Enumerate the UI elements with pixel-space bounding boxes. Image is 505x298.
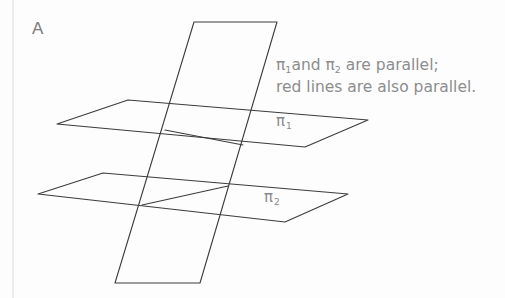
panel-letter: A [32, 20, 43, 37]
intersection-line-upper [165, 130, 243, 145]
annotation-line-1-suffix: are parallel; [341, 56, 439, 74]
pi-2-subscript: 2 [273, 197, 280, 207]
figure-annotation: π1and π2 are parallel; red lines are als… [276, 55, 504, 97]
intersection-line-lower [142, 186, 228, 205]
plane-pi-2-outline [38, 173, 348, 222]
annotation-line-2: red lines are also parallel. [276, 77, 504, 97]
annotation-pi-2-symbol: π [325, 56, 334, 74]
plane-pi-1-outline [57, 100, 368, 147]
plane-label-pi-2: π2 [264, 190, 280, 205]
annotation-conjunction: and [291, 56, 325, 74]
geometry-diagram [0, 0, 505, 298]
figure-page: A π1 π2 π1and π2 are parallel; red lines… [0, 0, 505, 298]
plane-label-pi-1: π1 [276, 114, 292, 129]
transversal-plane-outline [115, 22, 277, 283]
pi-2-symbol: π [264, 188, 273, 206]
pi-1-symbol: π [276, 112, 285, 130]
annotation-line-1: π1and π2 are parallel; [276, 55, 504, 77]
annotation-pi-1-symbol: π [276, 56, 285, 74]
annotation-pi-2-subscript: 2 [335, 64, 341, 75]
annotation-pi-1-subscript: 1 [285, 64, 291, 75]
pi-1-subscript: 1 [285, 121, 292, 131]
